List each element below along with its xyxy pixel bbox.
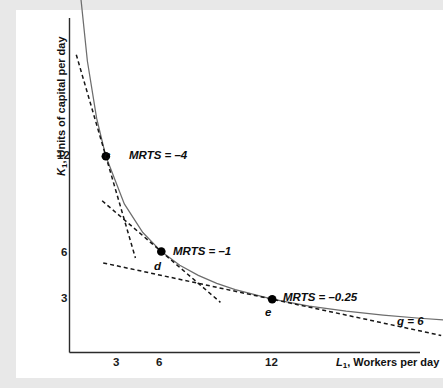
x-tick-label-6: 6 — [156, 357, 162, 369]
data-point-d — [157, 247, 166, 256]
y-tick-label-6: 6 — [61, 247, 67, 259]
y-axis-title-symbol: K — [55, 168, 67, 176]
data-point-e — [268, 295, 277, 304]
x-tick-label-3: 3 — [113, 357, 119, 369]
mrts-annotation-c: MRTS = –4 — [129, 150, 187, 162]
figure-root: K1, Units of capital per day L1, Workers… — [0, 0, 443, 388]
y-axis-title-text: , Units of capital per day — [55, 36, 67, 163]
isoquant-label: q = 6 — [397, 316, 424, 328]
x-axis-title-symbol: L — [336, 356, 343, 368]
y-tick-label-3: 3 — [61, 293, 67, 305]
x-axis-title-text: , Workers per day — [347, 356, 439, 368]
point-label-d: d — [154, 261, 161, 273]
x-axis-title: L1, Workers per day — [336, 357, 439, 370]
point-label-c: c — [104, 150, 110, 162]
mrts-annotation-d: MRTS = –1 — [173, 246, 231, 258]
y-tick-label-12: 12 — [57, 150, 70, 162]
point-label-e: e — [265, 307, 271, 319]
y-axis-title-subscript: 1 — [60, 164, 69, 168]
mrts-annotation-e: MRTS = –0.25 — [283, 292, 357, 304]
x-tick-label-12: 12 — [265, 357, 278, 369]
